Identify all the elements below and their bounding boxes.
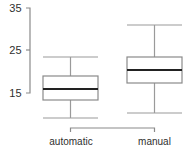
y-tick-label-15: 15 — [0, 88, 22, 99]
boxplot-figure: 35 25 15 automatic manual — [0, 0, 188, 158]
y-axis — [26, 8, 30, 93]
box-automatic — [43, 57, 98, 118]
x-category-label-automatic: automatic — [30, 136, 112, 147]
iqr-box-automatic — [43, 76, 98, 100]
x-axis-bracket — [71, 128, 155, 132]
x-category-label-manual: manual — [119, 136, 188, 147]
x-axis — [71, 128, 155, 132]
box-manual — [127, 25, 182, 113]
y-tick-label-35: 35 — [0, 3, 22, 14]
boxplot-canvas — [0, 0, 188, 158]
y-tick-label-25: 25 — [0, 45, 22, 56]
